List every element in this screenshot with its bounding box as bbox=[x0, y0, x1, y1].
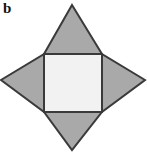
figure-panel: b bbox=[0, 0, 147, 154]
inner-square-shape bbox=[44, 54, 102, 112]
star-diagram bbox=[0, 0, 147, 154]
